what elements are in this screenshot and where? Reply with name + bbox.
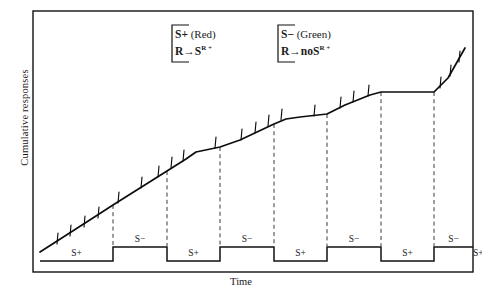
no-word: no	[301, 45, 313, 57]
arrow-icon: →	[183, 45, 195, 57]
phase-label-sminus: S−	[220, 234, 274, 244]
phase-label-sminus: S−	[327, 234, 381, 244]
s-plus-legend-line2: R→SR +	[175, 41, 216, 58]
s-minus-legend-line2: R→noSR +	[281, 41, 331, 58]
s-minus-symbol: S−	[281, 28, 294, 40]
phase-label-splus: S+	[274, 248, 327, 258]
s-plus-legend: S+ (Red) R→SR +	[175, 27, 216, 58]
s-minus-color-word: (Green)	[297, 28, 331, 40]
s-plus-symbol: S+	[175, 28, 188, 40]
s-plus-color-word: (Red)	[191, 28, 216, 40]
phase-label-sminus: S−	[434, 234, 473, 244]
s-plus-legend-line1: S+ (Red)	[175, 27, 216, 41]
phase-label-splus: S+	[381, 248, 434, 258]
reinforcer-superscript: R +	[201, 44, 212, 52]
s-minus-legend-line1: S− (Green)	[281, 27, 331, 41]
reinforcer-superscript: R +	[319, 44, 330, 52]
arrow-icon: →	[289, 45, 301, 57]
phase-label-sminus: S−	[113, 234, 167, 244]
axis-box	[33, 11, 473, 272]
phase-label-splus: S+	[40, 248, 113, 258]
phase-label-splus: S+	[167, 248, 220, 258]
cumulative-record-figure: Cumulative responses Time S+ (Red) R→SR …	[0, 0, 482, 297]
y-axis-label: Cumulative responses	[19, 48, 30, 188]
x-axis-label: Time	[0, 276, 482, 287]
s-minus-legend: S− (Green) R→noSR +	[281, 27, 331, 58]
